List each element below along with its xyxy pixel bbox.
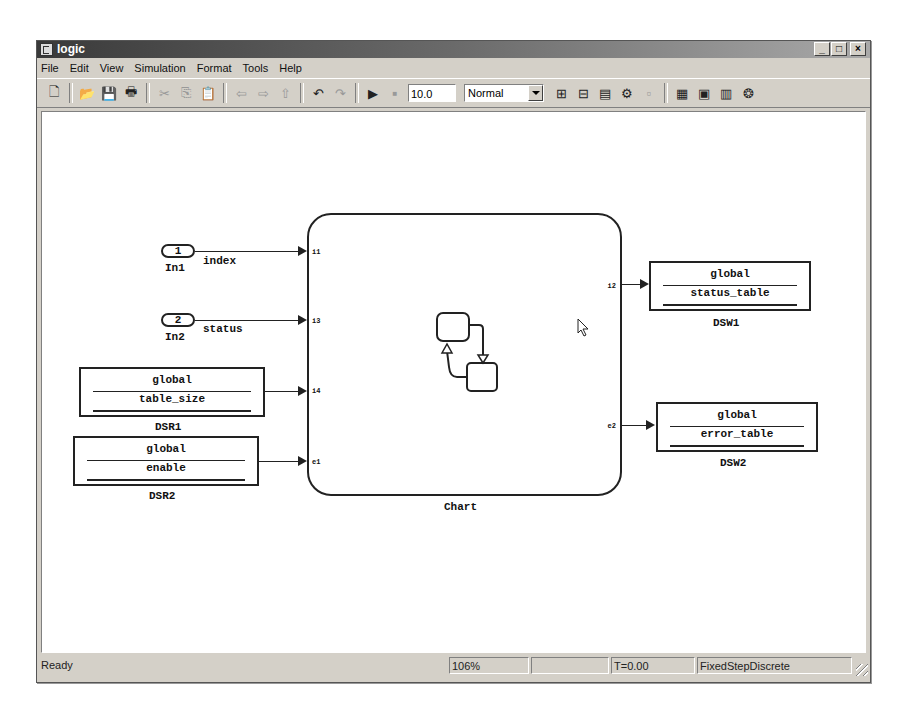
explorer-icon[interactable]: ▥ xyxy=(717,84,735,102)
inport-in2[interactable]: 2 xyxy=(161,313,195,327)
chart-port-e2: e2 xyxy=(608,422,616,430)
chevron-down-icon[interactable] xyxy=(528,85,543,101)
build-icon[interactable]: ⊞ xyxy=(552,84,570,102)
signal-line-dsr1[interactable] xyxy=(265,391,300,392)
signal-line-dsr2[interactable] xyxy=(259,461,300,462)
inport-in1-label: In1 xyxy=(165,262,185,274)
chart-port-i1: i1 xyxy=(312,248,320,256)
signal-line-dsw1[interactable] xyxy=(622,284,642,285)
divider xyxy=(670,426,804,427)
stop-simulation-icon[interactable]: ■ xyxy=(386,84,404,102)
status-bar: Ready 106% T=0.00 FixedStepDiscrete xyxy=(37,654,870,678)
disabled-tool-icon[interactable]: ▫ xyxy=(640,84,658,102)
model-browser-icon[interactable]: ▣ xyxy=(695,84,713,102)
signal-label-status[interactable]: status xyxy=(203,323,243,335)
chart-port-i2: i2 xyxy=(608,282,616,290)
status-state: Ready xyxy=(39,657,339,674)
library-browser-icon[interactable]: ▦ xyxy=(673,84,691,102)
menu-bar: File Edit View Simulation Format Tools H… xyxy=(37,59,870,77)
debug-icon[interactable]: ⚙ xyxy=(618,84,636,102)
arrow-icon xyxy=(640,279,649,289)
data-store-read-dsr2[interactable]: global enable xyxy=(73,436,259,486)
status-zoom: 106% xyxy=(449,657,529,674)
menu-view[interactable]: View xyxy=(100,62,124,74)
forward-icon[interactable]: ⇨ xyxy=(254,84,272,102)
copy-icon[interactable]: ⎘ xyxy=(177,84,195,102)
redo-icon[interactable]: ↷ xyxy=(331,84,349,102)
arrow-icon xyxy=(298,456,307,466)
dsw1-label: DSW1 xyxy=(713,317,739,329)
menu-file[interactable]: File xyxy=(41,62,59,74)
minimize-button[interactable]: _ xyxy=(814,42,830,56)
dsr1-scope: global xyxy=(81,374,263,386)
data-store-write-dsw1[interactable]: global status_table xyxy=(649,261,811,311)
dsr2-variable: enable xyxy=(75,462,257,474)
model-window: logic _ □ × File Edit View Simulation Fo… xyxy=(36,40,871,683)
menu-format[interactable]: Format xyxy=(197,62,232,74)
signal-label-index[interactable]: index xyxy=(203,255,236,267)
toolbar-separator xyxy=(69,83,73,103)
arrow-icon xyxy=(298,246,307,256)
stateflow-chart-block[interactable]: i1 i3 i4 e1 i2 e2 xyxy=(307,213,622,496)
maximize-button[interactable]: □ xyxy=(831,42,847,56)
menu-edit[interactable]: Edit xyxy=(70,62,89,74)
data-store-read-dsr1[interactable]: global table_size xyxy=(79,367,265,417)
divider xyxy=(87,479,245,481)
status-progress xyxy=(531,657,609,674)
divider xyxy=(87,460,245,461)
arrow-icon xyxy=(646,420,655,430)
title-bar[interactable]: logic _ □ × xyxy=(37,41,870,58)
arrow-icon xyxy=(298,315,307,325)
new-model-icon[interactable]: 🗋 xyxy=(45,84,63,102)
simulink-app-icon xyxy=(40,43,53,56)
signal-line-status[interactable] xyxy=(195,320,300,321)
stateflow-chart-icon xyxy=(427,307,507,407)
signal-line-dsw2[interactable] xyxy=(622,425,648,426)
toolbar-separator xyxy=(355,83,359,103)
inport-in2-label: In2 xyxy=(165,331,185,343)
menu-help[interactable]: Help xyxy=(279,62,302,74)
cut-icon[interactable]: ✂ xyxy=(155,84,173,102)
back-icon[interactable]: ⇦ xyxy=(232,84,250,102)
undo-icon[interactable]: ↶ xyxy=(309,84,327,102)
simulation-mode-select[interactable]: Normal xyxy=(464,84,544,102)
data-store-write-dsw2[interactable]: global error_table xyxy=(656,402,818,452)
divider xyxy=(93,410,251,412)
divider xyxy=(670,445,804,447)
model-canvas[interactable]: 1 In1 index 2 In2 status global table_si… xyxy=(41,111,866,653)
menu-simulation[interactable]: Simulation xyxy=(134,62,185,74)
chart-port-i3: i3 xyxy=(312,317,320,325)
dsr2-scope: global xyxy=(75,443,257,455)
up-icon[interactable]: ⇧ xyxy=(276,84,294,102)
divider xyxy=(663,304,797,306)
signal-line-index[interactable] xyxy=(195,251,300,252)
save-icon[interactable]: 💾 xyxy=(100,84,118,102)
dsw2-label: DSW2 xyxy=(720,457,746,469)
dsw2-variable: error_table xyxy=(658,428,816,440)
toolbar-separator xyxy=(300,83,304,103)
toolbar: 🗋 📂 💾 🖶 ✂ ⎘ 📋 ⇦ ⇨ ⇧ ↶ ↷ ▶ ■ 10.0 Normal … xyxy=(37,78,870,108)
chart-label: Chart xyxy=(444,501,477,513)
resize-grip-icon[interactable] xyxy=(856,664,868,676)
inport-in1[interactable]: 1 xyxy=(161,244,195,258)
dsw2-scope: global xyxy=(658,409,816,421)
open-icon[interactable]: 📂 xyxy=(78,84,96,102)
toolbar-separator xyxy=(664,83,668,103)
dsr1-label: DSR1 xyxy=(155,421,181,433)
mouse-cursor-icon xyxy=(577,318,591,338)
status-time: T=0.00 xyxy=(611,657,695,674)
dsw1-variable: status_table xyxy=(651,287,809,299)
stateflow-icon[interactable]: ❂ xyxy=(739,84,757,102)
arrow-icon xyxy=(298,386,307,396)
close-button[interactable]: × xyxy=(850,42,866,56)
start-simulation-icon[interactable]: ▶ xyxy=(364,84,382,102)
update-diagram-icon[interactable]: ⊟ xyxy=(574,84,592,102)
stop-time-input[interactable]: 10.0 xyxy=(408,84,456,102)
paste-icon[interactable]: 📋 xyxy=(199,84,217,102)
print-icon[interactable]: 🖶 xyxy=(122,84,140,102)
menu-tools[interactable]: Tools xyxy=(243,62,269,74)
toolbar-separator xyxy=(146,83,150,103)
model-explorer-icon[interactable]: ▤ xyxy=(596,84,614,102)
status-solver: FixedStepDiscrete xyxy=(697,657,852,674)
dsr2-label: DSR2 xyxy=(149,490,175,502)
